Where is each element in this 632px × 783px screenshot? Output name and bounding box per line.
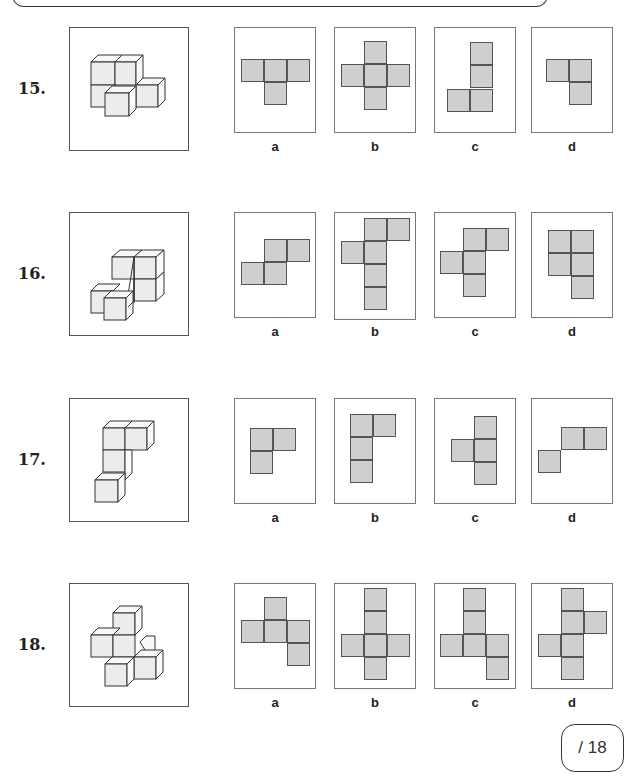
option-d-label: d — [531, 695, 613, 710]
score-label: / 18 — [578, 738, 606, 758]
option-c-label: c — [434, 324, 516, 339]
cube-figure-box — [69, 583, 189, 707]
cube-figure-box — [69, 398, 189, 522]
option-a[interactable] — [234, 583, 316, 689]
option-d[interactable] — [531, 398, 613, 504]
isometric-cube-stack-icon — [70, 28, 190, 152]
option-a-label: a — [234, 695, 316, 710]
question-row-15: 15. a — [0, 27, 632, 177]
option-c[interactable] — [434, 212, 516, 318]
cube-figure-box — [69, 27, 189, 151]
option-a[interactable] — [234, 398, 316, 504]
isometric-cube-stack-icon — [70, 213, 190, 337]
option-c[interactable] — [434, 398, 516, 504]
option-d[interactable] — [531, 583, 613, 689]
option-d-label: d — [531, 139, 613, 154]
option-c[interactable] — [434, 27, 516, 133]
option-b[interactable] — [334, 583, 416, 689]
option-c-label: c — [434, 139, 516, 154]
option-b-label: b — [334, 324, 416, 339]
question-number: 16. — [18, 264, 63, 283]
question-number: 17. — [18, 450, 63, 469]
cube-figure-box — [69, 212, 189, 336]
question-row-16: 16. — [0, 212, 632, 362]
question-row-17: 17. a b c d — [0, 398, 632, 548]
option-b[interactable] — [334, 398, 416, 504]
option-b-label: b — [334, 510, 416, 525]
isometric-cube-stack-icon — [70, 584, 190, 708]
question-number: 15. — [18, 79, 63, 98]
option-b[interactable] — [334, 212, 416, 320]
header-frame — [12, 0, 548, 7]
option-c[interactable] — [434, 583, 516, 689]
isometric-cube-stack-icon — [70, 399, 190, 523]
option-d-label: d — [531, 324, 613, 339]
option-a-label: a — [234, 510, 316, 525]
option-a-label: a — [234, 324, 316, 339]
option-a[interactable] — [234, 212, 316, 318]
question-row-18: 18. — [0, 583, 632, 733]
option-d-label: d — [531, 510, 613, 525]
option-b-label: b — [334, 139, 416, 154]
score-box: / 18 — [561, 724, 624, 772]
option-a[interactable] — [234, 27, 316, 133]
option-c-label: c — [434, 510, 516, 525]
option-a-label: a — [234, 139, 316, 154]
option-d[interactable] — [531, 212, 613, 318]
option-b-label: b — [334, 695, 416, 710]
option-b[interactable] — [334, 27, 416, 133]
question-number: 18. — [18, 635, 63, 654]
option-d[interactable] — [531, 27, 613, 133]
option-c-label: c — [434, 695, 516, 710]
